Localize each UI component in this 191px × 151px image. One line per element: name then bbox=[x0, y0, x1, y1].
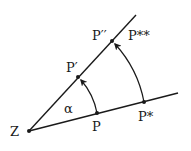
arc-P-to-P-prime bbox=[81, 80, 97, 113]
point-P-star bbox=[142, 100, 146, 104]
label-P: P bbox=[92, 119, 101, 134]
label-P-prime: P′ bbox=[66, 60, 78, 75]
point-P bbox=[95, 111, 99, 115]
arc-Pstar-to-Pdoubleprime bbox=[115, 44, 144, 102]
point-Z bbox=[27, 129, 31, 133]
angle-alpha-label: α bbox=[64, 101, 73, 116]
point-P-prime bbox=[76, 75, 80, 79]
point-P-double-prime bbox=[110, 39, 114, 43]
label-Z: Z bbox=[10, 124, 19, 139]
diagram-svg: Z P P* P′ P′′ P** α bbox=[0, 0, 191, 151]
label-P-double-star: P** bbox=[128, 28, 150, 43]
label-P-double-prime: P′′ bbox=[92, 28, 107, 43]
label-P-star: P* bbox=[138, 109, 154, 124]
rotation-diagram: Z P P* P′ P′′ P** α bbox=[0, 0, 191, 151]
lower-ray bbox=[29, 93, 178, 131]
upper-ray bbox=[29, 15, 136, 131]
